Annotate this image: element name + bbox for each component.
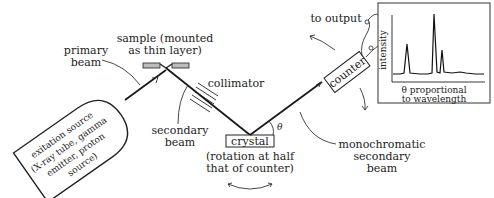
theta-label: θ bbox=[277, 122, 283, 132]
inset-ylabel: intensity bbox=[378, 29, 388, 70]
primary-beam-line bbox=[125, 70, 166, 100]
sample-label-2: as thin layer) bbox=[128, 44, 202, 57]
output-wire-2 bbox=[368, 14, 378, 20]
primary-beam-pointer bbox=[102, 60, 140, 85]
sample-holder bbox=[143, 63, 189, 68]
primary-beam-label-2: beam bbox=[71, 56, 102, 69]
crystal-rotation-arrow bbox=[228, 184, 272, 189]
crystal-label: crystal bbox=[231, 135, 269, 148]
mono-beam-pointer bbox=[300, 112, 336, 144]
excitation-source: exitation source (X-ray tube, gamma emit… bbox=[13, 90, 138, 198]
secondary-beam-pointer bbox=[178, 85, 188, 124]
theta-arc bbox=[269, 121, 274, 135]
mono-beam-label-3: beam bbox=[367, 162, 398, 175]
output-wire-1 bbox=[362, 20, 370, 56]
secondary-beam-label-2: beam bbox=[165, 136, 196, 149]
inset-spectrum-plot: intensity θ proportional to wavelength bbox=[378, 3, 490, 104]
counter-box: counter bbox=[324, 51, 370, 92]
inset-xlabel-2: to wavelength bbox=[402, 94, 467, 104]
collimator-label: collimator bbox=[208, 77, 265, 90]
counter-rotation-arrow-up bbox=[310, 36, 335, 50]
to-output-label: to output bbox=[310, 12, 362, 25]
crystal-note-2: that of counter) bbox=[206, 162, 294, 175]
xrf-spectrometer-diagram: exitation source (X-ray tube, gamma emit… bbox=[0, 0, 494, 198]
